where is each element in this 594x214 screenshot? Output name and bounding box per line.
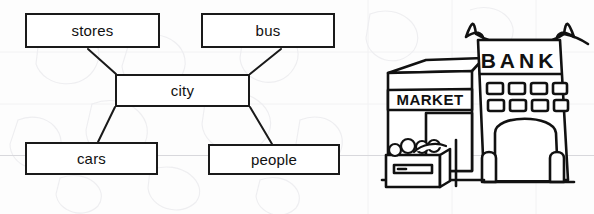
concept-node-label: people — [251, 151, 297, 168]
bank-sign-text: BANK — [481, 49, 558, 72]
bank-window — [488, 100, 504, 111]
cityscape-illustration: MARKET BANK — [368, 0, 594, 214]
concept-node-bus[interactable]: bus — [201, 13, 335, 48]
bank-window — [554, 100, 568, 111]
connector-city-people — [250, 107, 272, 144]
bank-window — [487, 83, 503, 94]
bank-arched-doorway — [495, 119, 558, 180]
concept-node-stores[interactable]: stores — [25, 13, 160, 48]
concept-node-label: city — [171, 82, 194, 99]
bank-window — [510, 100, 526, 111]
concept-node-label: bus — [256, 22, 281, 39]
concept-map: stores bus city cars people — [0, 0, 350, 214]
bank-window — [531, 83, 547, 94]
market-sign-text: MARKET — [396, 91, 463, 108]
bollard — [482, 152, 496, 182]
bank-window — [532, 100, 548, 111]
connector-bus-city — [250, 49, 281, 74]
concept-node-label: stores — [71, 22, 113, 39]
produce-crate-side — [440, 149, 450, 187]
worksheet-page: stores bus city cars people — [0, 0, 594, 214]
concept-node-cars[interactable]: cars — [25, 142, 158, 175]
concept-node-label: cars — [77, 150, 106, 167]
concept-node-people[interactable]: people — [208, 144, 340, 175]
bollard — [550, 152, 564, 182]
bank-window — [553, 83, 567, 94]
connector-stores-city — [88, 49, 116, 74]
concept-node-city[interactable]: city — [115, 74, 250, 107]
bank-window — [509, 83, 525, 94]
connector-city-cars — [98, 107, 115, 142]
pagoda-eave-tail — [564, 34, 588, 44]
